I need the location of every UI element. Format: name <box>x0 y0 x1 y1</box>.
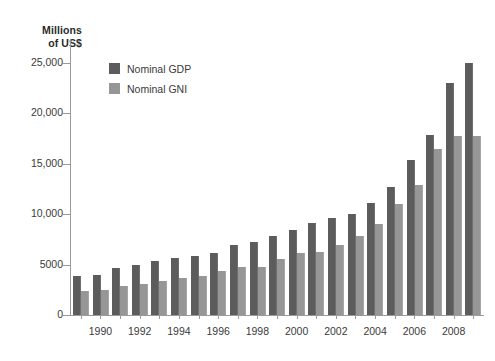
y-axis-tick-label: 15,000 <box>5 157 63 169</box>
bar-group <box>387 63 405 315</box>
bar-group <box>328 63 346 315</box>
bar-nominal-gni <box>316 252 324 316</box>
y-axis-tick <box>63 164 71 165</box>
plot-area: 0500010,00015,00020,00025,00019901992199… <box>71 63 483 315</box>
legend-swatch-icon <box>109 83 120 94</box>
bar-nominal-gni <box>454 136 462 315</box>
bar-nominal-gdp <box>328 218 336 315</box>
x-axis-tick <box>140 315 141 319</box>
bar-nominal-gdp <box>465 63 473 315</box>
y-axis-tick <box>63 214 71 215</box>
bar-nominal-gdp <box>230 245 238 315</box>
y-axis-title-line-1: Millions <box>26 24 82 37</box>
x-axis-tick <box>414 315 415 319</box>
x-axis-tick <box>100 315 101 319</box>
bar-nominal-gni <box>395 204 403 315</box>
x-axis-tick <box>316 315 317 319</box>
y-axis-tick-label: 5000 <box>5 258 63 270</box>
x-axis-tick <box>375 315 376 319</box>
x-axis-tick-label: 1998 <box>246 325 269 337</box>
bar-nominal-gdp <box>446 83 454 315</box>
bar-group <box>407 63 425 315</box>
bar-nominal-gdp <box>426 135 434 315</box>
x-axis-tick-label: 1990 <box>89 325 112 337</box>
x-axis-tick <box>355 315 356 319</box>
bar-group <box>73 63 91 315</box>
bar-nominal-gdp <box>387 187 395 315</box>
legend-item-label: Nominal GDP <box>127 63 191 75</box>
bar-group <box>269 63 287 315</box>
x-axis-tick-label: 1992 <box>128 325 151 337</box>
bar-nominal-gni <box>297 253 305 315</box>
bar-nominal-gdp <box>367 203 375 315</box>
bar-nominal-gdp <box>289 230 297 315</box>
bar-nominal-gdp <box>250 242 258 315</box>
bar-nominal-gni <box>218 271 226 315</box>
bar-group <box>230 63 248 315</box>
bar-nominal-gdp <box>210 253 218 315</box>
x-axis-tick-label: 2008 <box>442 325 465 337</box>
bar-nominal-gni <box>336 245 344 315</box>
x-axis-tick-label: 2002 <box>324 325 347 337</box>
bar-nominal-gdp <box>171 258 179 315</box>
bar-nominal-gni <box>179 278 187 315</box>
bar-nominal-gni <box>415 185 423 315</box>
x-axis-tick <box>238 315 239 319</box>
x-axis-tick <box>336 315 337 319</box>
bar-group <box>348 63 366 315</box>
y-axis-tick <box>63 265 71 266</box>
y-axis-tick <box>63 113 71 114</box>
x-axis-tick-label: 2006 <box>403 325 426 337</box>
bar-nominal-gdp <box>308 223 316 315</box>
bar-nominal-gni <box>258 267 266 315</box>
y-axis-title-line-2: of US$ <box>26 37 82 50</box>
bar-nominal-gni <box>375 224 383 315</box>
x-axis-tick <box>454 315 455 319</box>
bar-nominal-gni <box>434 149 442 315</box>
x-axis-tick <box>297 315 298 319</box>
bar-group <box>446 63 464 315</box>
legend-item-label: Nominal GNI <box>127 83 187 95</box>
bar-nominal-gni <box>356 236 364 315</box>
bar-nominal-gni <box>473 136 481 315</box>
bar-group <box>191 63 209 315</box>
x-axis-tick-label: 2000 <box>285 325 308 337</box>
bar-nominal-gdp <box>132 265 140 315</box>
bar-group <box>289 63 307 315</box>
bar-group <box>93 63 111 315</box>
bar-group <box>112 63 130 315</box>
bar-group <box>367 63 385 315</box>
bar-nominal-gdp <box>269 236 277 315</box>
bar-nominal-gdp <box>407 160 415 315</box>
x-axis-tick <box>179 315 180 319</box>
x-axis-tick <box>199 315 200 319</box>
x-axis-tick <box>473 315 474 319</box>
x-axis-tick-label: 2004 <box>363 325 386 337</box>
chart-legend: Nominal GDPNominal GNI <box>109 60 191 100</box>
x-axis-tick <box>257 315 258 319</box>
x-axis-tick <box>218 315 219 319</box>
x-axis-tick <box>277 315 278 319</box>
bar-nominal-gni <box>140 284 148 315</box>
bar-chart: Millions of US$ 0500010,00015,00020,0002… <box>0 0 495 361</box>
bar-nominal-gni <box>101 290 109 315</box>
x-axis-tick-label: 1996 <box>206 325 229 337</box>
y-axis-tick-label: 25,000 <box>5 56 63 68</box>
legend-item: Nominal GDP <box>109 60 191 77</box>
bar-nominal-gdp <box>93 275 101 315</box>
bar-group <box>151 63 169 315</box>
bar-nominal-gni <box>238 267 246 315</box>
bar-nominal-gni <box>199 276 207 315</box>
x-axis-tick <box>159 315 160 319</box>
x-axis-tick <box>81 315 82 319</box>
bar-nominal-gdp <box>73 276 81 315</box>
bar-group <box>250 63 268 315</box>
bar-group <box>426 63 444 315</box>
bar-group <box>132 63 150 315</box>
legend-item: Nominal GNI <box>109 80 191 97</box>
y-axis-title: Millions of US$ <box>26 24 82 49</box>
y-axis-tick-label: 10,000 <box>5 207 63 219</box>
y-axis-tick-label: 0 <box>5 308 63 320</box>
bar-nominal-gdp <box>151 261 159 315</box>
bar-nominal-gni <box>120 286 128 315</box>
